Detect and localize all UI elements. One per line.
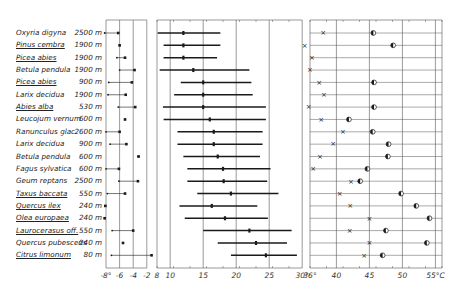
mean-marker	[265, 253, 267, 257]
left-low-marker	[109, 143, 111, 145]
left-high-marker	[131, 81, 134, 84]
altitude-label: 2500 m	[62, 28, 102, 37]
mean-marker	[182, 56, 184, 60]
species-label: Picea abies	[16, 53, 57, 62]
cross-marker: ×	[321, 91, 327, 99]
left-axis-tick: -6	[116, 271, 123, 280]
right-axis-tick: 50	[398, 271, 408, 280]
altitude-label: 1900 m	[62, 53, 102, 62]
species-label: Oxyria digyna	[16, 28, 66, 37]
mean-marker	[223, 179, 225, 183]
species-label: Picea abies	[16, 77, 57, 86]
altitude-label: 550 m	[62, 189, 102, 198]
cross-marker: ×	[318, 116, 324, 124]
altitude-label: 240 m	[62, 201, 102, 210]
left-high-marker	[124, 56, 127, 59]
left-low-marker	[111, 230, 113, 232]
species-label: Geum reptans	[16, 176, 67, 185]
altitude-label: 80 m	[62, 250, 102, 259]
altitude-label: 550 m	[62, 226, 102, 235]
left-high-marker	[118, 168, 121, 171]
left-low-marker	[119, 69, 121, 71]
left-low-marker	[111, 254, 113, 256]
cross-marker: ×	[306, 103, 312, 111]
middle-axis-tick: 8	[155, 271, 160, 280]
left-high-marker	[117, 32, 120, 35]
cross-marker: ×	[337, 190, 343, 198]
altitude-label: 240 m	[62, 213, 102, 222]
mean-marker	[202, 80, 204, 84]
mean-marker	[217, 155, 219, 159]
left-high-marker	[118, 131, 121, 134]
chart-figure: ××××××××××××××××××× Oxyria digyna2500 mP…	[0, 0, 459, 294]
mean-marker	[230, 192, 232, 196]
mean-marker	[213, 142, 215, 146]
left-axis-tick: -2	[143, 271, 150, 280]
left-high-marker	[134, 106, 137, 109]
altitude-label: 600 m	[62, 164, 102, 173]
altitude-label: 900 m	[62, 139, 102, 148]
altitude-label: 2500 m	[62, 176, 102, 185]
mean-marker	[213, 130, 215, 134]
left-high-marker	[122, 242, 125, 245]
cross-marker: ×	[310, 165, 316, 173]
left-high-marker	[132, 229, 135, 232]
altitude-label: 530 m	[62, 102, 102, 111]
left-high-marker	[137, 180, 140, 183]
cross-marker: ×	[320, 29, 326, 37]
right-axis-tick: 45	[365, 271, 375, 280]
species-label: Taxus baccata	[16, 189, 67, 198]
altitude-label: 1900 m	[62, 65, 102, 74]
cross-marker: ×	[317, 153, 323, 161]
middle-axis-tick: 25	[264, 271, 274, 280]
left-high-marker	[104, 205, 107, 208]
left-low-marker	[117, 106, 119, 108]
left-axis-tick: -4	[129, 271, 136, 280]
middle-axis-tick: 10	[165, 271, 175, 280]
species-label: Olea europaea	[16, 213, 69, 222]
mean-marker	[202, 93, 204, 97]
left-high-marker	[133, 69, 136, 72]
right-axis-tick: 55°C	[426, 271, 445, 280]
cross-marker: ×	[330, 140, 336, 148]
species-label: Pinus cembra	[16, 40, 65, 49]
left-high-marker	[124, 118, 127, 121]
right-axis-tick: 36°	[303, 271, 316, 280]
left-low-marker	[116, 57, 118, 59]
cross-marker: ×	[340, 128, 346, 136]
altitude-label: 900 m	[62, 77, 102, 86]
mean-marker	[202, 105, 204, 109]
altitude-label: 240 m	[62, 238, 102, 247]
left-high-marker	[124, 192, 127, 195]
altitude-label: 2600 m	[62, 127, 102, 136]
mean-marker	[222, 167, 224, 171]
mean-marker	[224, 216, 226, 220]
cross-marker: ×	[366, 239, 372, 247]
cross-marker: ×	[366, 215, 372, 223]
cross-marker: ×	[348, 178, 354, 186]
left-high-marker	[137, 155, 140, 158]
mean-marker	[209, 117, 211, 121]
left-low-marker	[104, 32, 106, 34]
altitude-label: 1900 m	[62, 40, 102, 49]
mean-marker	[211, 204, 213, 208]
cross-marker: ×	[316, 79, 322, 87]
right-axis-tick: 40	[332, 271, 342, 280]
cross-marker: ×	[347, 227, 353, 235]
left-axis-tick: -8°	[100, 271, 111, 280]
left-low-marker	[106, 193, 108, 195]
altitude-label: 1900 m	[62, 90, 102, 99]
species-label: Abies alba	[16, 102, 53, 111]
left-low-marker	[107, 94, 109, 96]
middle-axis-tick: 20	[231, 271, 241, 280]
left-low-marker	[118, 180, 120, 182]
species-label: Quercus ilex	[16, 201, 61, 210]
left-high-marker	[103, 217, 106, 220]
cross-marker: ×	[309, 54, 315, 62]
altitude-label: 600 m	[62, 114, 102, 123]
cross-marker: ×	[302, 42, 308, 50]
left-high-marker	[125, 143, 128, 146]
mean-marker	[182, 43, 184, 47]
species-label: Larix decidua	[16, 90, 64, 99]
mean-marker	[255, 241, 257, 245]
